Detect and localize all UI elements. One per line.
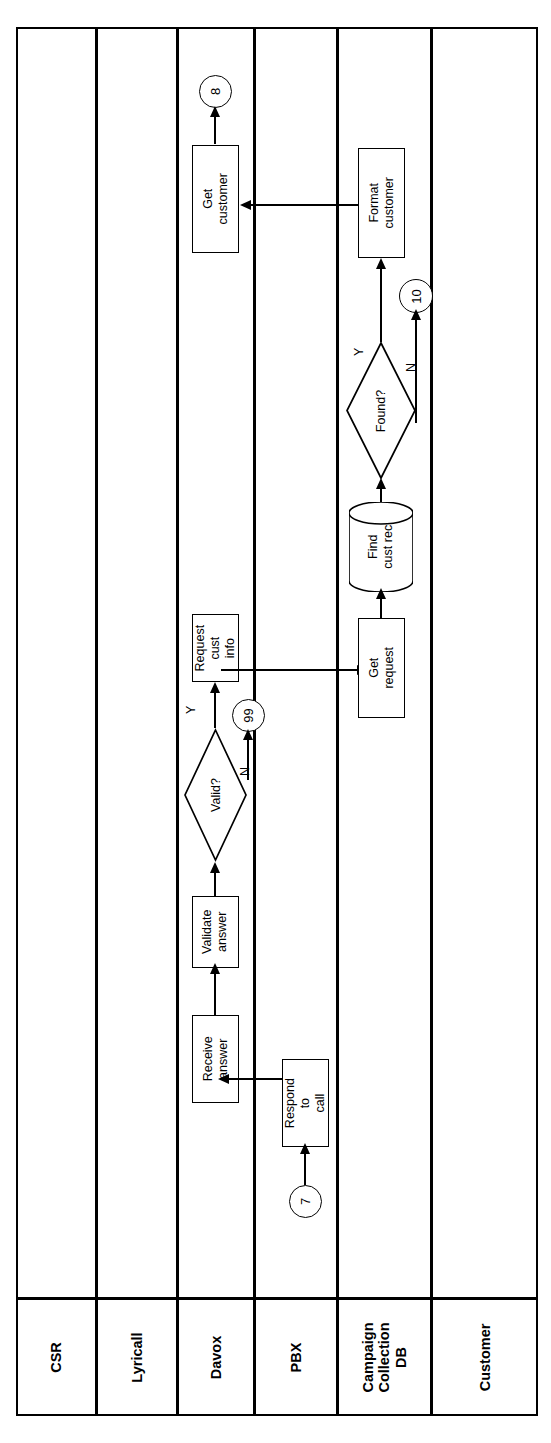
connector-10: 10: [399, 279, 433, 313]
edge-valid-yes-arrowhead: [210, 682, 220, 693]
node-found-decision: Found?: [347, 343, 415, 478]
connector-8-label: 8: [209, 88, 222, 95]
flowchart-page: CSR Lyricall Davox PBX Campaign Collecti…: [0, 0, 551, 1443]
edge-label-valid-yes: Y: [184, 700, 198, 716]
connector-7-label: 7: [299, 1198, 312, 1205]
edge-found-yes-arrowhead: [376, 258, 386, 269]
node-found-decision-text: Found?: [347, 343, 415, 478]
node-respond-to-call: Respond to call: [282, 1059, 329, 1147]
node-validate-answer: Validate answer: [192, 896, 239, 968]
edge-respondtocall-to-receiveanswer-arrowhead: [218, 1074, 229, 1084]
node-find-cust-rec-label: Find cust rec: [366, 525, 396, 569]
node-respond-to-call-label: Respond to call: [283, 1078, 327, 1128]
node-validate-answer-label: Validate answer: [201, 910, 231, 954]
lane-divider-1: [95, 27, 98, 1416]
edge-receiveanswer-to-validateanswer-arrowhead: [210, 963, 220, 974]
node-valid-decision-text: Valid?: [185, 730, 246, 860]
edge-valid-yes: [214, 688, 216, 728]
node-find-cust-rec-text: Find cust rec: [349, 502, 413, 592]
connector-10-label: 10: [410, 289, 423, 303]
edge-requestcustinfo-to-getrequest: [221, 669, 357, 671]
node-get-request-label: Get request: [367, 646, 397, 691]
lane-label-campaign: Campaign Collection DB: [326, 1311, 443, 1404]
node-get-customer-label: Get customer: [201, 173, 231, 224]
edge-formatcustomer-to-getcustomer: [246, 204, 362, 206]
node-format-customer-label: Format customer: [367, 177, 397, 228]
edge-getcustomer-to-8-arrowhead: [210, 106, 220, 117]
node-valid-decision: Valid?: [185, 730, 246, 860]
lane-label-customer: Customer: [427, 1305, 544, 1411]
node-format-customer: Format customer: [358, 148, 405, 258]
edge-7-to-respondtocall-arrowhead: [300, 1143, 310, 1154]
edge-formatcustomer-to-getcustomer-arrowhead: [240, 200, 251, 210]
node-found-decision-label: Found?: [374, 389, 388, 431]
node-get-customer: Get customer: [192, 145, 239, 253]
node-request-cust-info: Request cust info: [192, 614, 239, 682]
lane-divider-2: [176, 27, 179, 1416]
lane-divider-4: [336, 27, 339, 1416]
edge-receiveanswer-to-validateanswer: [214, 968, 216, 1015]
connector-7: 7: [289, 1185, 322, 1218]
edge-getrequest-to-findcustrec-arrowhead: [376, 588, 386, 599]
connector-99: 99: [232, 699, 265, 732]
node-receive-answer: Receive answer: [192, 1015, 239, 1103]
lane-divider-5: [430, 27, 433, 1416]
connector-8: 8: [199, 75, 232, 108]
edge-validateanswer-to-valid-arrowhead: [210, 862, 220, 873]
node-get-request: Get request: [358, 618, 405, 718]
edge-found-no-arrowhead: [411, 309, 421, 320]
edge-found-yes: [380, 264, 382, 342]
node-find-cust-rec: Find cust rec: [349, 502, 413, 592]
connector-99-label: 99: [242, 708, 255, 722]
node-valid-decision-label: Valid?: [208, 778, 222, 812]
edge-findcustrec-to-found-arrowhead: [376, 478, 386, 489]
lane-header-separator: [16, 1297, 538, 1300]
node-request-cust-info-label: Request cust info: [193, 625, 237, 672]
